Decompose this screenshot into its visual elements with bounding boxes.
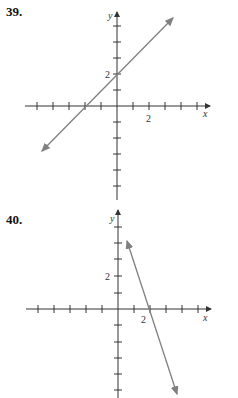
problem-number-40: 40. xyxy=(6,212,22,228)
graph-39: y x 2 2 xyxy=(25,10,210,200)
plotted-line xyxy=(127,241,177,394)
y-axis-label: y xyxy=(107,10,113,21)
graphs: y x 2 2 xyxy=(0,0,238,398)
y-tick-label-2: 2 xyxy=(105,69,110,80)
x-axis-label: x xyxy=(202,312,208,323)
y-tick-label-2: 2 xyxy=(105,271,110,282)
y-axis-label: y xyxy=(109,213,115,224)
x-tick-label-2: 2 xyxy=(141,314,146,325)
graph-40: y x 2 2 xyxy=(26,210,211,398)
x-axis-label: x xyxy=(202,108,208,119)
x-tick-label-2: 2 xyxy=(146,113,151,124)
plotted-line xyxy=(42,18,173,151)
